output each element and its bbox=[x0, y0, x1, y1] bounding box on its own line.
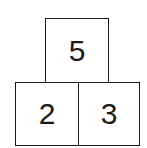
pyramid-top-box: 5 bbox=[45, 18, 109, 83]
pyramid-bottom-left-box: 2 bbox=[15, 82, 79, 146]
pyramid-bottom-right-box: 3 bbox=[78, 82, 140, 146]
top-value: 5 bbox=[69, 36, 86, 66]
bottom-left-value: 2 bbox=[39, 99, 56, 129]
bottom-right-value: 3 bbox=[101, 99, 118, 129]
